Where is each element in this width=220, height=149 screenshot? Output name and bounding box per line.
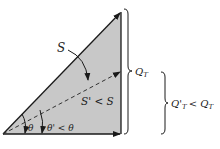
label-s: S <box>57 41 65 55</box>
brace-q-prime-total <box>161 72 168 134</box>
label-theta: θ <box>28 123 34 133</box>
label-q-prime-total: Q'T< QT <box>171 98 214 111</box>
label-theta-prime: θ' < θ <box>47 123 74 133</box>
brace-q-total <box>124 9 132 134</box>
label-s-prime: S' < S <box>81 95 114 107</box>
power-triangle-diagram: S S' < S θ θ' < θ QT Q'T< QT <box>0 0 220 149</box>
label-q-total: QT <box>135 66 149 79</box>
